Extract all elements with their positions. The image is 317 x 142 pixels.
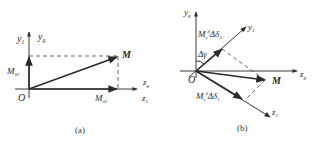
label-angle-delta-gamma: Δγ	[197, 49, 207, 59]
angle-arc-delta-gamma	[196, 61, 204, 64]
label-origin-b: O	[188, 74, 195, 85]
dashed-projection-to-z1	[245, 80, 265, 100]
label-yg-a: yg	[37, 31, 45, 43]
label-z1-b: z1	[271, 107, 278, 118]
resultant-vector-m-b	[196, 71, 265, 80]
label-z1-a: z1	[141, 93, 148, 104]
label-zg-b: zg	[299, 69, 307, 80]
label-component-y1-b: MzδΔδ3	[197, 29, 222, 40]
diagram-canvas: y1 yg M Mδ3 O Mδ1 zg z1 (a) yg y1 MzδΔδ3	[0, 0, 317, 142]
resultant-vector-m	[29, 57, 117, 89]
caption-b: (b)	[237, 123, 248, 133]
label-zg-a: zg	[142, 77, 150, 88]
caption-a: (a)	[75, 125, 85, 135]
label-component-z-a: Mδ1	[94, 93, 107, 104]
label-component-y-a: Mδ3	[6, 66, 20, 77]
panel-a: y1 yg M Mδ3 O Mδ1 zg z1 (a)	[6, 31, 150, 135]
label-point-m-a: M	[121, 49, 132, 60]
label-component-z1-b: MzδΔδ1	[195, 91, 220, 102]
label-point-m-b: M	[271, 75, 282, 86]
label-y1-a: y1	[16, 33, 24, 45]
label-y1-b: y1	[247, 22, 255, 33]
label-yg-b: yg	[183, 7, 191, 18]
label-origin-a: O	[18, 92, 25, 103]
panel-b: yg y1 MzδΔδ3 Δγ O M zg MzδΔδ1 z1 (b)	[180, 7, 307, 133]
